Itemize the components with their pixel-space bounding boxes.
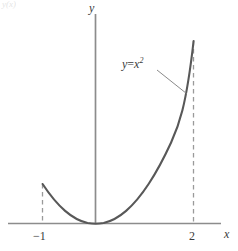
x-tick-label-neg-1: −1: [33, 230, 46, 242]
curve-label-leader-line: [157, 70, 187, 94]
y-axis-label: y: [89, 2, 94, 14]
curve-equation-exponent: 2: [139, 56, 143, 65]
plot-canvas: [0, 0, 238, 251]
curve-equation-label: y=x2: [122, 58, 143, 70]
figure-parabola-y-equals-x-squared: y(x) y x −1 2 y=x2: [0, 0, 238, 251]
x-tick-label-2: 2: [189, 230, 195, 242]
curve-y-equals-x-squared: [43, 41, 194, 224]
x-axis-label: x: [224, 228, 229, 240]
corner-artifact-text: y(x): [2, 0, 16, 9]
